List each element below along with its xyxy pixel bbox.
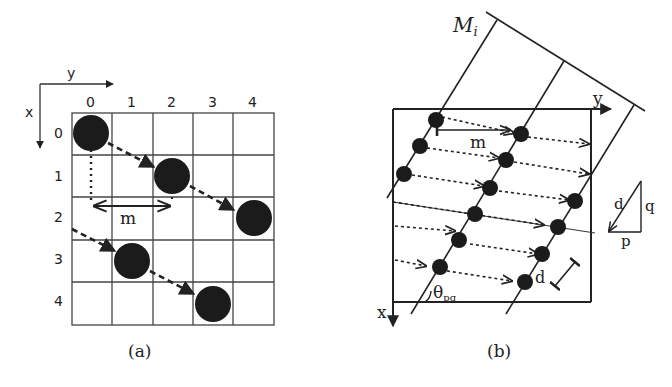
m-label-b: m (470, 132, 486, 152)
row-label: 2 (54, 209, 63, 225)
triangle-q-label: q (645, 197, 655, 215)
triangle-d-label: d (614, 195, 624, 213)
col-label: 3 (208, 94, 217, 110)
axis-y-label-b: y (592, 88, 603, 108)
d-spacing (555, 262, 575, 286)
figure-canvas: y x 0 1 2 3 4 0 1 2 3 4 (0, 0, 672, 387)
row-label: 0 (54, 125, 63, 141)
column-labels: 0 1 2 3 4 (86, 94, 257, 110)
row-label: 3 (54, 251, 63, 267)
dots-a (73, 115, 272, 322)
triangle-p-label: p (621, 232, 631, 250)
manifold-baseline (486, 12, 645, 111)
theta-label: θpq (433, 282, 457, 303)
row-label: 1 (54, 168, 63, 184)
axis-x-label-b: x (377, 302, 387, 322)
dot (195, 286, 231, 322)
d-label: d (535, 268, 545, 287)
theta-arc (425, 291, 431, 302)
panel-a: y x 0 1 2 3 4 0 1 2 3 4 (25, 65, 274, 361)
lattice-lines (387, 20, 634, 314)
m-label: m (120, 208, 136, 228)
panel-b: y x Mi m (377, 12, 655, 361)
dot (73, 115, 109, 151)
caption-a: (a) (128, 341, 151, 361)
axis-x-label: x (25, 104, 33, 120)
row-label: 4 (54, 293, 63, 309)
dot (154, 158, 190, 194)
triangle-dpq (608, 181, 641, 232)
col-label: 0 (86, 94, 95, 110)
axis-y-label: y (67, 65, 75, 81)
caption-b: (b) (487, 341, 511, 361)
col-label: 1 (127, 94, 136, 110)
manifold-label: Mi (452, 13, 478, 39)
dot (236, 200, 272, 236)
col-label: 2 (167, 94, 176, 110)
dot (114, 243, 150, 279)
col-label: 4 (248, 94, 257, 110)
row-labels: 0 1 2 3 4 (54, 125, 63, 309)
